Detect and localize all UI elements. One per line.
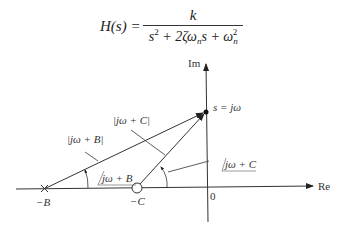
angle-arc-b	[85, 170, 88, 188]
imag-axis	[206, 64, 208, 222]
magnitude-c-label: |jω + C|	[113, 114, 150, 126]
leader-angle-c	[168, 161, 209, 172]
leader-b	[85, 152, 98, 161]
svg-text:jω + B: jω + B	[100, 172, 133, 184]
s-point-label: s = jω	[213, 101, 241, 113]
origin-label: 0	[210, 190, 216, 202]
real-axis-label: Re	[318, 180, 330, 192]
angle-b-label: jω + B	[98, 171, 136, 185]
s-plane-diagram: Re Im 0 s = jω −B −C |jω + B| |jω + C| j…	[0, 0, 350, 231]
pole-label: −B	[36, 196, 50, 208]
svg-text:jω + C: jω + C	[223, 158, 257, 170]
zero-marker	[132, 183, 142, 193]
angle-arc-c	[161, 167, 167, 188]
imag-axis-label: Im	[188, 57, 201, 69]
s-point	[204, 110, 209, 115]
magnitude-b-label: |jω + B|	[67, 133, 104, 145]
real-axis	[16, 186, 313, 189]
zero-label: −C	[130, 195, 145, 207]
angle-c-label: jω + C	[222, 158, 257, 171]
